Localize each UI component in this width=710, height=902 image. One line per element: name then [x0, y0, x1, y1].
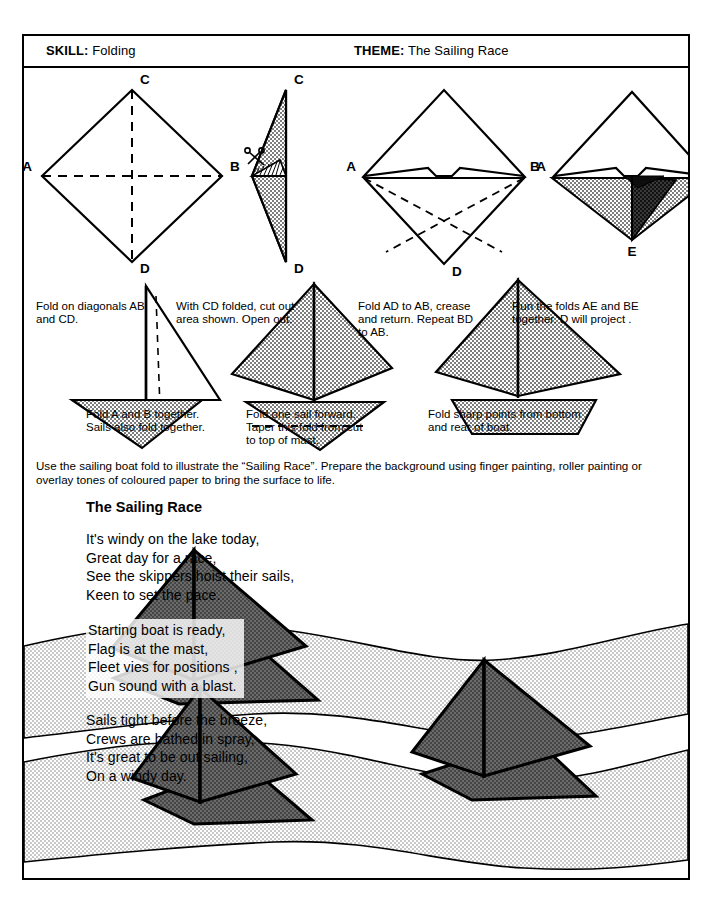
step-1-figure: A B C D	[24, 72, 240, 276]
skill-value: Folding	[92, 43, 135, 58]
poem-title: The Sailing Race	[86, 499, 202, 515]
label-C-step2: C	[294, 72, 304, 87]
step-4-caption: Run the folds AE and BE together. D will…	[512, 300, 687, 326]
theme-value: The Sailing Race	[408, 43, 509, 58]
step-5-caption: Fold A and B together. Sails also fold t…	[86, 408, 246, 434]
label-D-step1: D	[140, 261, 150, 276]
step-7-caption: Fold sharp points from bottom and rear o…	[428, 408, 658, 434]
poem-verse-3: Sails tight before the breeze, Crews are…	[86, 711, 267, 785]
label-B-step1: B	[230, 159, 240, 174]
theme-label: THEME:	[354, 43, 404, 58]
step-3-figure: A B D	[346, 90, 540, 279]
label-A-step4: A	[536, 159, 546, 174]
poem-verse-1: It's windy on the lake today, Great day …	[86, 530, 294, 604]
worksheet-frame: SKILL: Folding THEME: The Sailing Race	[22, 34, 690, 880]
label-A-step3: A	[346, 159, 356, 174]
step-2-caption: With CD folded, cut out area shown. Open…	[176, 300, 326, 326]
label-D-step3: D	[452, 264, 462, 279]
step-1-caption: Fold on diagonals AB and CD.	[36, 300, 176, 326]
step-6-caption: Fold one sail forward. Taper this fold f…	[246, 408, 406, 446]
step-2-figure: C D	[245, 72, 304, 276]
fold-steps-diagram: A B C D	[24, 68, 688, 460]
header-band: SKILL: Folding THEME: The Sailing Race	[24, 36, 688, 68]
skill-field: SKILL: Folding	[46, 43, 136, 58]
label-D-step2: D	[294, 261, 304, 276]
step-4-figure: A B E	[536, 92, 688, 259]
label-E-step4: E	[627, 244, 636, 259]
theme-field: THEME: The Sailing Race	[354, 43, 509, 58]
worksheet-page: SKILL: Folding THEME: The Sailing Race	[0, 0, 710, 902]
step-3-caption: Fold AD to AB, crease and return. Repeat…	[358, 300, 513, 338]
poem-verse-2: Starting boat is ready, Flag is at the m…	[86, 619, 244, 698]
skill-label: SKILL:	[46, 43, 88, 58]
label-C-step1: C	[140, 72, 150, 87]
label-A-step1: A	[24, 159, 32, 174]
